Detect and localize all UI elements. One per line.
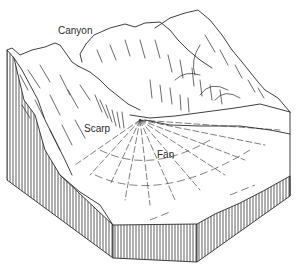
alluvial-fan-block-diagram: Canyon Scarp Fan [0, 0, 302, 267]
slope-hachures [20, 35, 264, 150]
scarp-label: Scarp [84, 124, 110, 134]
canyon-label: Canyon [58, 26, 92, 36]
block-side-faces [7, 50, 290, 262]
fan-label: Fan [157, 150, 174, 160]
block-diagram-drawing [0, 0, 302, 267]
